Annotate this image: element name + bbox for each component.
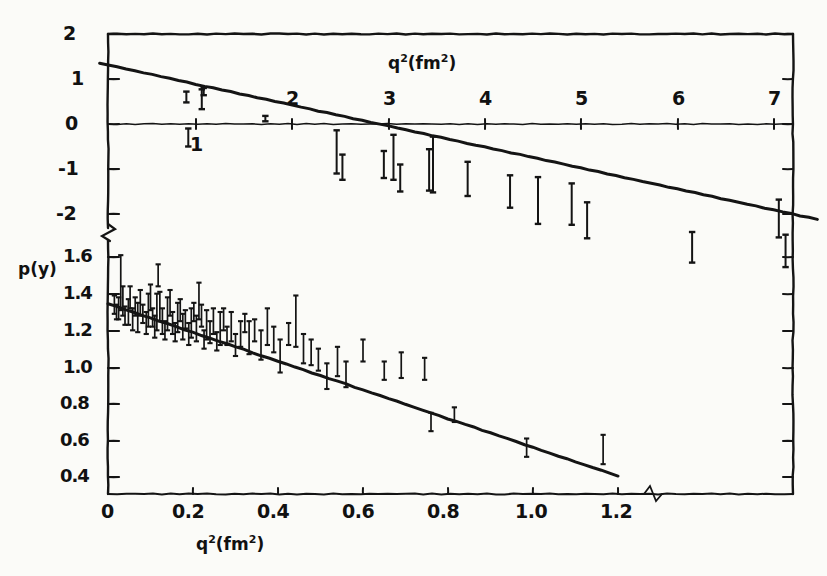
x-tick-lower-1: 0.2 xyxy=(172,500,204,522)
x-axis-title-bottom-exponent: 2 xyxy=(208,533,216,546)
data-point xyxy=(183,92,189,103)
x-tick-upper-2: 3 xyxy=(383,87,396,109)
x-tick-lower-2: 0.4 xyxy=(257,500,289,522)
y-tick-lower-2: 1.2 xyxy=(63,319,92,340)
upper-x-axis-line xyxy=(108,123,793,124)
data-point xyxy=(265,308,270,345)
data-point xyxy=(301,334,306,363)
data-point xyxy=(242,314,247,332)
data-point xyxy=(399,352,404,378)
data-point xyxy=(293,296,298,347)
upper-panel-data-points xyxy=(183,88,789,267)
x-tick-lower-0: 0 xyxy=(101,500,114,522)
figure-container: 2 1 0 -1 -2 p(y) 1.6 1.4 1.2 1.0 0.8 0.6… xyxy=(0,0,827,576)
data-point xyxy=(430,137,436,193)
data-point xyxy=(333,130,339,173)
x-axis-title-top-unit-open: (fm xyxy=(408,53,441,73)
x-tick-upper-3: 4 xyxy=(479,87,492,109)
data-point xyxy=(238,321,243,347)
data-point xyxy=(156,264,161,286)
x-axis-title-bottom-unit-close: ) xyxy=(256,534,264,554)
x-axis-title-bottom-base: q xyxy=(196,534,208,554)
data-point xyxy=(271,327,276,353)
plot-frame-top xyxy=(108,33,793,34)
y-tick-lower-1: 1.4 xyxy=(63,282,92,303)
lower-panel-data-points xyxy=(112,255,606,464)
data-point xyxy=(390,135,396,180)
y-tick-lower-3: 1.0 xyxy=(63,356,92,377)
data-point xyxy=(507,175,513,207)
x-tick-upper-0: 1 xyxy=(190,133,203,155)
y-tick-upper-0: 2 xyxy=(63,22,76,44)
data-point xyxy=(464,162,470,196)
data-point xyxy=(776,200,782,238)
y-tick-upper-2: 0 xyxy=(65,112,78,134)
data-point xyxy=(397,165,403,192)
x-tick-upper-4: 5 xyxy=(575,87,588,109)
x-tick-lower-4: 0.8 xyxy=(427,500,459,522)
y-axis-label-py: p(y) xyxy=(18,259,57,279)
y-tick-lower-0: 1.6 xyxy=(63,245,92,266)
x-axis-title-bottom-unit-open: (fm xyxy=(216,534,249,554)
data-point xyxy=(286,323,291,345)
x-tick-lower-3: 0.6 xyxy=(342,500,374,522)
data-point xyxy=(262,116,268,121)
x-axis-title-top-exponent: 2 xyxy=(400,52,408,65)
y-tick-upper-1: 1 xyxy=(71,67,84,89)
upper-panel-fit-line xyxy=(100,63,818,219)
x-axis-title-bottom: q2(fm2) xyxy=(196,533,264,554)
data-point xyxy=(535,177,541,224)
x-axis-title-top-base: q xyxy=(388,53,400,73)
data-point xyxy=(278,340,283,373)
data-point xyxy=(339,155,345,180)
data-point xyxy=(524,439,529,457)
x-axis-title-top-unit-close: ) xyxy=(448,53,456,73)
data-point xyxy=(335,347,340,376)
data-point xyxy=(428,413,433,431)
x-tick-upper-5: 6 xyxy=(672,87,685,109)
y-tick-lower-5: 0.6 xyxy=(60,429,89,450)
data-point xyxy=(382,362,387,380)
y-axis-upper-spine xyxy=(108,34,109,228)
x-tick-upper-6: 7 xyxy=(768,87,781,109)
data-point xyxy=(422,358,427,380)
plot-frame-bottom xyxy=(108,493,793,494)
lower-panel-fit-line xyxy=(108,304,618,476)
x-tick-lower-6: 1.2 xyxy=(600,500,632,522)
data-point xyxy=(782,235,788,267)
y-tick-lower-4: 0.8 xyxy=(60,392,89,413)
data-point xyxy=(689,232,695,263)
x-axis-title-top: q2(fm2) xyxy=(388,52,456,73)
data-point xyxy=(381,151,387,178)
x-tick-lower-5: 1.0 xyxy=(515,500,547,522)
data-point xyxy=(569,183,575,224)
y-tick-upper-3: -1 xyxy=(58,157,78,179)
y-tick-upper-4: -2 xyxy=(56,202,76,224)
data-point xyxy=(309,340,314,366)
data-point xyxy=(360,340,365,362)
data-point xyxy=(426,149,432,190)
plot-canvas xyxy=(0,0,827,576)
plot-frame-right xyxy=(792,34,793,494)
data-point xyxy=(601,435,606,464)
x-tick-upper-1: 2 xyxy=(286,87,299,109)
data-point xyxy=(316,349,321,371)
data-point xyxy=(252,319,257,341)
y-tick-lower-6: 0.4 xyxy=(60,465,89,486)
data-point xyxy=(584,202,590,238)
